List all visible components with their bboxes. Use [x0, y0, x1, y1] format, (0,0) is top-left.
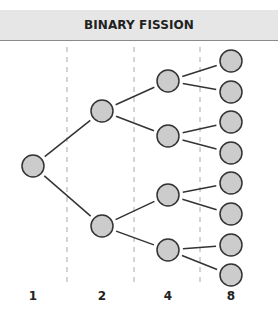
cell-circle: [91, 100, 113, 122]
division-line: [116, 201, 155, 219]
cell-circle: [220, 234, 242, 256]
generation-label-4: 4: [153, 289, 183, 303]
division-line: [116, 231, 154, 245]
generation-label-2: 2: [87, 289, 117, 303]
cell-circle: [220, 172, 242, 194]
cell-circle: [157, 239, 179, 261]
cell-circle: [157, 70, 179, 92]
cell-circle: [22, 155, 44, 177]
binary-fission-diagram: [0, 0, 278, 314]
cell-circle: [220, 50, 242, 72]
cell-circle: [220, 264, 242, 286]
cell-circle: [220, 142, 242, 164]
cell-circle: [220, 111, 242, 133]
cell-circle: [220, 203, 242, 225]
cell-circle: [157, 125, 179, 147]
division-line: [116, 116, 154, 130]
division-line: [116, 87, 155, 105]
generation-dividers: [67, 47, 200, 284]
cell-circle: [157, 184, 179, 206]
division-lines: [44, 66, 217, 270]
cells: [22, 50, 242, 286]
generation-label-8: 8: [216, 289, 246, 303]
cell-circle: [220, 81, 242, 103]
cell-circle: [91, 215, 113, 237]
generation-label-1: 1: [18, 289, 48, 303]
